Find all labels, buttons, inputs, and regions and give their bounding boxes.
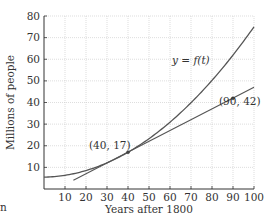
x-tick-label: 80	[205, 191, 218, 203]
x-tick-label: 10	[58, 191, 71, 203]
y-tick-label: 50	[27, 74, 40, 86]
y-tick-label: 40	[27, 96, 40, 108]
x-tick-label: 30	[100, 191, 113, 203]
x-tick-label: 90	[226, 191, 239, 203]
x-tick-label: 50	[142, 191, 155, 203]
y-tick-label: 80	[27, 10, 40, 22]
axes: 1020304050607080901001020304050607080Yea…	[0, 10, 264, 216]
x-tick-label: 60	[163, 191, 176, 203]
y-tick-label: 20	[27, 139, 40, 151]
y-axis-label: Millions of people	[4, 55, 16, 150]
point-label-40-17: (40, 17)	[89, 139, 131, 151]
stray-glyph: n	[0, 201, 7, 213]
y-tick-label: 60	[27, 53, 40, 65]
x-tick-label: 70	[184, 191, 197, 203]
x-axis-label: Years after 1800	[104, 203, 193, 215]
x-tick-label: 100	[244, 191, 264, 203]
y-tick-label: 70	[27, 31, 40, 43]
population-chart: 1020304050607080901001020304050607080Yea…	[0, 0, 267, 221]
curve-label: y = f(t)	[171, 54, 210, 66]
x-tick-label: 40	[121, 191, 134, 203]
y-tick-label: 10	[27, 161, 40, 173]
point-label-90-42: (90, 42)	[219, 95, 261, 107]
y-tick-label: 30	[27, 118, 40, 130]
annotations: y = f(t)(40, 17)(90, 42)	[89, 54, 261, 154]
x-tick-label: 20	[79, 191, 92, 203]
